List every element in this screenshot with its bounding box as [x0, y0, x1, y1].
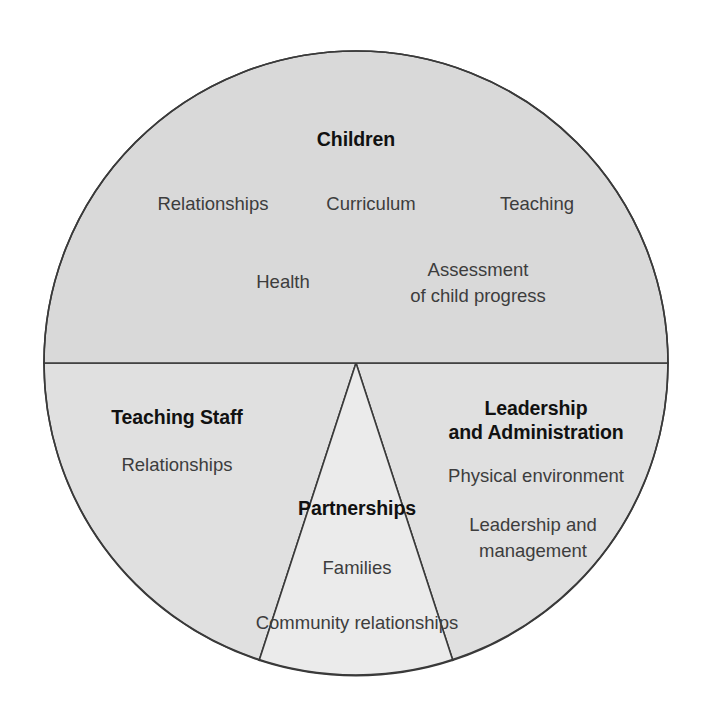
section-heading-leadership-line1: Leadership — [484, 397, 587, 419]
item-children-teaching: Teaching — [500, 193, 574, 214]
item-children-relationships: Relationships — [157, 193, 268, 214]
program-standards-wheel: Children Relationships Curriculum Teachi… — [0, 0, 705, 721]
item-children-assessment-line1: Assessment — [428, 259, 529, 280]
diagram-root: Children Relationships Curriculum Teachi… — [0, 0, 705, 721]
item-children-curriculum: Curriculum — [326, 193, 415, 214]
item-partnerships-families: Families — [323, 557, 392, 578]
item-leadership-management-line2: management — [479, 540, 587, 561]
item-children-health: Health — [256, 271, 309, 292]
section-heading-partnerships: Partnerships — [298, 497, 416, 519]
item-leadership-physical-environment: Physical environment — [448, 465, 624, 486]
item-leadership-management-line1: Leadership and — [469, 514, 597, 535]
section-heading-leadership-line2: and Administration — [448, 421, 623, 443]
section-heading-children: Children — [317, 128, 395, 150]
item-partnerships-community-relationships: Community relationships — [256, 612, 459, 633]
item-teaching-staff-relationships: Relationships — [121, 454, 232, 475]
section-heading-teaching-staff: Teaching Staff — [111, 406, 243, 428]
item-children-assessment-line2: of child progress — [410, 285, 546, 306]
